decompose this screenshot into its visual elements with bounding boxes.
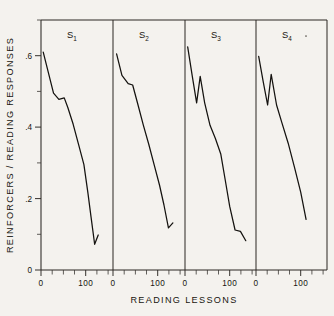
series-line-s2 — [117, 54, 173, 228]
x-tick-label-p4-0: 0 — [254, 279, 259, 288]
x-axis-panel-1: 0 100 — [39, 270, 109, 288]
x-axis-title: READING LESSONS — [130, 295, 237, 305]
y-axis-ticks — [35, 20, 41, 270]
series-line-s1 — [43, 52, 98, 244]
y-axis-tick-labels: 0 .2 .4 .6 — [25, 52, 32, 275]
x-tick-label-p1-100: 100 — [78, 279, 93, 288]
y-tick-label-0.2: .2 — [25, 195, 32, 204]
panel-label-s2: S2 — [139, 29, 149, 42]
series-line-s4 — [259, 56, 306, 219]
figure-container: 0 .2 .4 .6 0 100 0 100 — [0, 0, 334, 316]
plot-frame — [41, 20, 327, 270]
panel-label-s3: S3 — [211, 29, 221, 42]
x-tick-label-p3-0: 0 — [183, 279, 188, 288]
y-axis-title: REINFORCERS / READING RESPONSES — [5, 37, 15, 253]
y-tick-label-0: 0 — [27, 266, 32, 275]
x-tick-label-p2-100: 100 — [150, 279, 165, 288]
series-group — [43, 47, 306, 245]
panel-label-s4: S4 — [282, 29, 292, 42]
x-axis-panel-4: 0 100 — [254, 270, 324, 288]
x-axis-panel-3: 0 100 — [183, 270, 253, 288]
x-axis-panel-2: 0 100 — [111, 270, 181, 288]
x-tick-label-p2-0: 0 — [111, 279, 116, 288]
x-tick-label-p3-100: 100 — [222, 279, 237, 288]
panel-label-s1: S1 — [67, 29, 77, 42]
y-tick-label-0.4: .4 — [25, 123, 32, 132]
panel-dividers — [113, 20, 327, 270]
panel-labels: S1 S2 S3 S4 — [67, 29, 292, 42]
scan-speck — [305, 35, 307, 37]
x-tick-label-p1-0: 0 — [39, 279, 44, 288]
y-tick-label-0.6: .6 — [25, 52, 32, 61]
series-line-s3 — [188, 47, 246, 241]
chart-svg: 0 .2 .4 .6 0 100 0 100 — [0, 0, 334, 316]
x-tick-label-p4-100: 100 — [293, 279, 308, 288]
